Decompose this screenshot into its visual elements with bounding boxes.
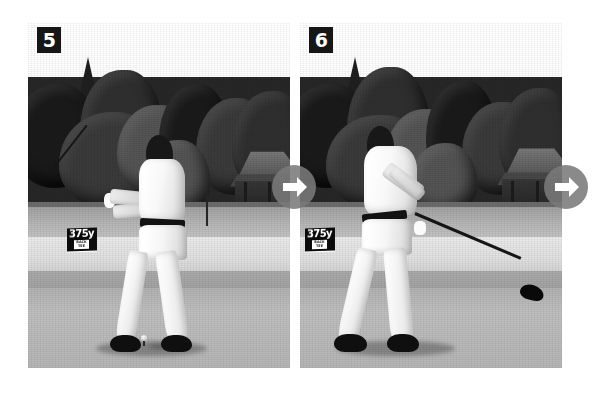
arrow-right-icon xyxy=(272,165,316,209)
yardage-sublabel: BACK TEE xyxy=(312,240,327,249)
yardage-distance: 375y xyxy=(69,228,94,239)
frame-number-badge-5: 5 xyxy=(37,27,61,53)
yardage-sign: 375y BACK TEE xyxy=(67,227,96,251)
golfer-glove xyxy=(414,221,425,234)
arrow-right-icon xyxy=(544,165,588,209)
golfer-torso xyxy=(139,159,185,223)
swing-frame-6[interactable]: 375y BACK TEE xyxy=(300,22,562,368)
golfer-trail-shoe xyxy=(161,335,192,352)
golfer-figure xyxy=(91,140,212,355)
golfer-trail-leg xyxy=(383,247,414,342)
golfer-trail-shoe xyxy=(387,334,420,352)
golfer-trail-leg xyxy=(155,250,189,342)
yardage-sign: 375y BACK TEE xyxy=(305,227,334,251)
frame-number-badge-6: 6 xyxy=(309,27,333,53)
swing-frame-5[interactable]: 375y BACK TEE xyxy=(28,22,290,368)
golfer-lead-shoe xyxy=(110,335,141,352)
yardage-sublabel: BACK TEE xyxy=(74,240,89,249)
golfer-lead-shoe xyxy=(334,334,367,352)
golfer-figure xyxy=(331,133,457,354)
golfer-lead-leg xyxy=(336,247,378,342)
golfer-lead-leg xyxy=(115,250,149,342)
next-frame-arrow-6[interactable] xyxy=(544,165,588,209)
next-frame-arrow-5[interactable] xyxy=(272,165,316,209)
swing-sequence-stage: 375y BACK TEE xyxy=(0,0,606,394)
yardage-distance: 375y xyxy=(307,228,332,239)
